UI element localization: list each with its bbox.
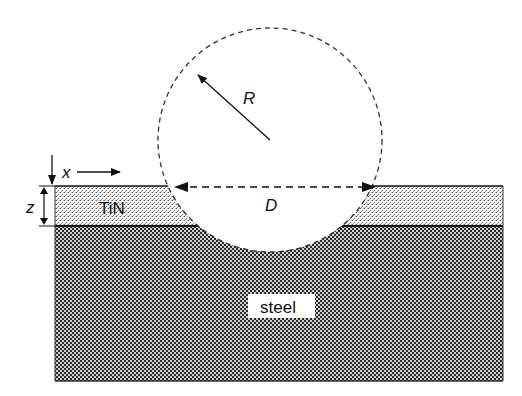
x-axis-label: x — [61, 163, 71, 182]
substrate-label: steel — [260, 298, 296, 317]
radius-arrow-icon — [198, 75, 270, 140]
z-top-arrowhead-icon — [40, 187, 48, 194]
coating-label: TiN — [99, 199, 125, 218]
diameter-label: D — [265, 196, 277, 215]
radius-label: R — [243, 89, 255, 108]
diameter-left-arrowhead-icon — [174, 182, 188, 192]
z-bottom-arrowhead-icon — [40, 218, 48, 225]
z-axis-label: z — [25, 198, 35, 217]
ball-crater-diagram: R D x z TiN steel — [0, 0, 522, 396]
